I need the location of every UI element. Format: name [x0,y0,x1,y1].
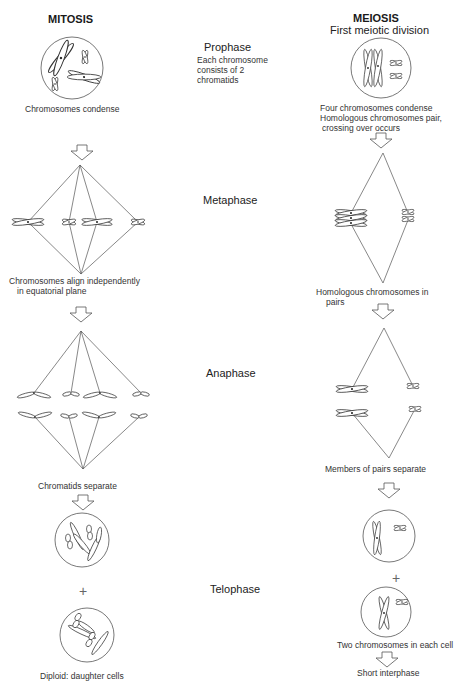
mitosis-arrow-2 [70,307,92,322]
meiosis-arrow-3 [378,483,400,498]
mitosis-arrow-1 [71,145,93,160]
mitosis-metaphase-spindle [12,165,146,274]
meiosis-anaphase-spindle [336,328,422,458]
meiosis-arrow-4 [376,652,398,667]
mitosis-daughter-cell-2 [60,608,114,662]
meiosis-metaphase-spindle [335,153,415,283]
meiosis-arrow-1 [370,133,392,148]
meiosis-daughter-cell-1 [363,510,415,562]
mitosis-arrow-3 [72,495,94,510]
meiosis-daughter-cell-2 [361,587,411,637]
mitosis-daughter-cell-1 [55,513,109,567]
meiosis-prophase-cell [351,38,411,98]
mitosis-prophase-cell [41,37,103,99]
diagram-graphics [0,0,476,691]
mitosis-anaphase-spindle [17,331,150,469]
meiosis-arrow-2 [372,304,394,319]
